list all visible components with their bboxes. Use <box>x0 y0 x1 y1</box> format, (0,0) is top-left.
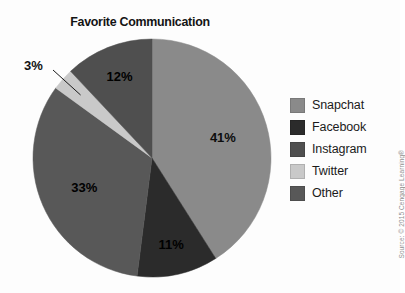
pie-chart-svg: 41%11%33%12% 3% <box>22 30 284 288</box>
legend-item-instagram[interactable]: Instagram <box>290 138 390 160</box>
legend-item-twitter[interactable]: Twitter <box>290 160 390 182</box>
slice-label-snapchat: 41% <box>210 130 236 145</box>
legend-item-other[interactable]: Other <box>290 182 390 204</box>
legend-swatch-other <box>290 186 305 201</box>
slice-label-instagram: 12% <box>107 69 133 84</box>
source-credit: Source: © 2015 Cengage Learning® <box>398 150 405 259</box>
slice-label-other: 33% <box>71 180 97 195</box>
chart-legend: SnapchatFacebookInstagramTwitterOther <box>290 94 390 204</box>
legend-swatch-facebook <box>290 120 305 135</box>
pie-slice-group <box>33 39 271 277</box>
legend-label: Facebook <box>312 120 366 134</box>
legend-label: Other <box>312 186 343 200</box>
legend-label: Twitter <box>312 164 348 178</box>
legend-item-snapchat[interactable]: Snapchat <box>290 94 390 116</box>
pie-chart: 41%11%33%12% 3% <box>22 30 284 288</box>
legend-swatch-instagram <box>290 142 305 157</box>
slice-label-facebook: 11% <box>159 237 185 252</box>
legend-label: Snapchat <box>312 98 364 112</box>
slice-callout-label-twitter: 3% <box>24 58 43 73</box>
chart-title: Favorite Communication <box>11 14 269 29</box>
legend-swatch-snapchat <box>290 98 305 113</box>
legend-swatch-twitter <box>290 164 305 179</box>
legend-label: Instagram <box>312 142 367 156</box>
legend-item-facebook[interactable]: Facebook <box>290 116 390 138</box>
